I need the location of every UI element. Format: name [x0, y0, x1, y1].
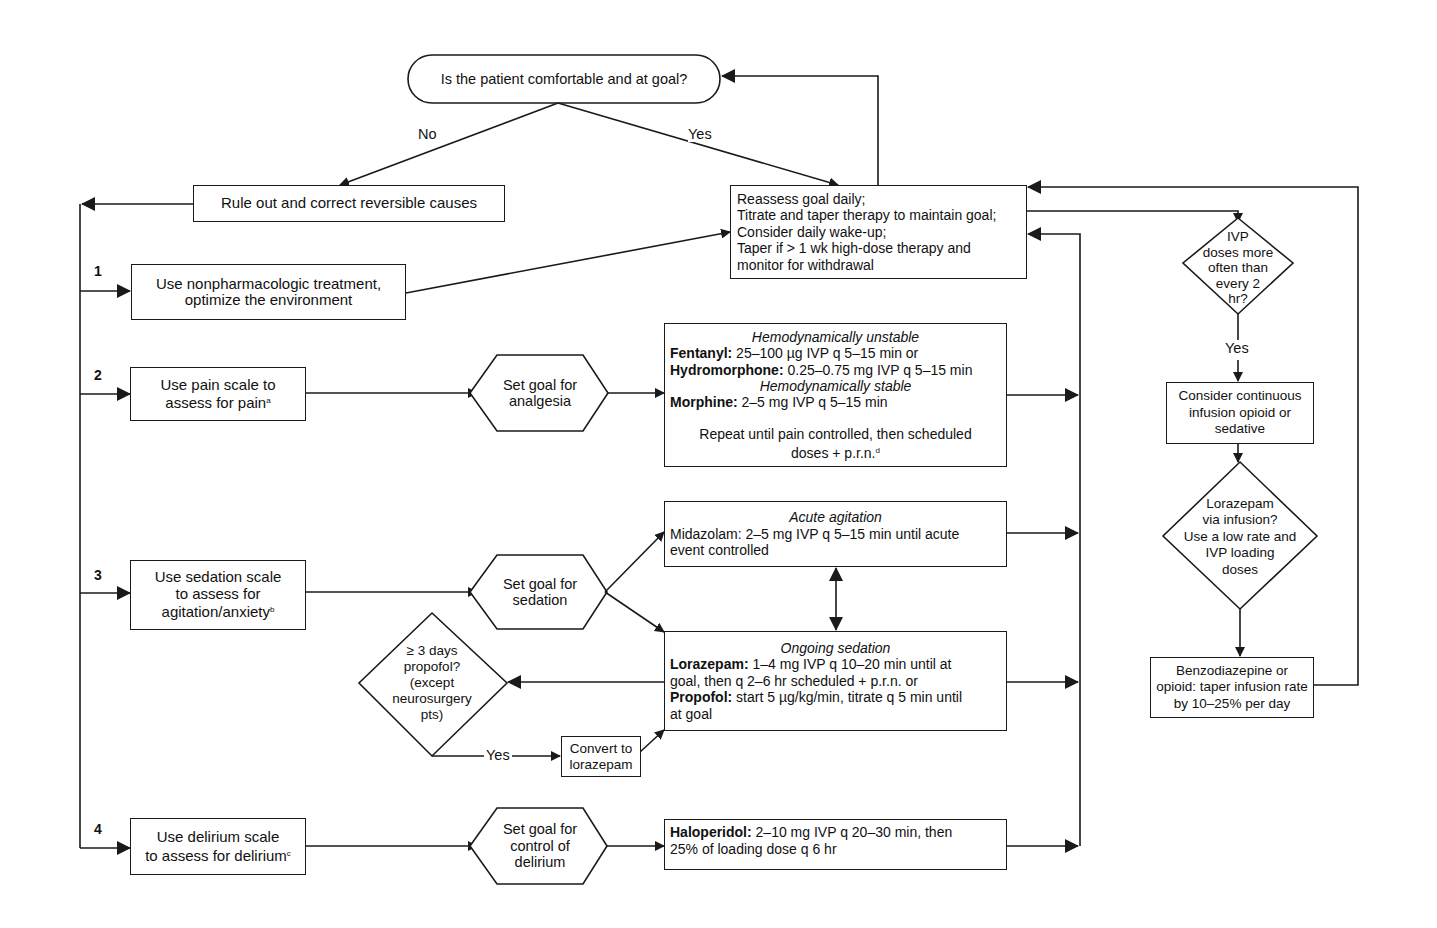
start-question[interactable]: Is the patient comfortable and at goal? — [408, 55, 720, 103]
step-number-3: 3 — [94, 567, 102, 583]
step-4-line: Use delirium scale — [157, 829, 280, 846]
propofol-decision-line: propofol? — [404, 659, 460, 675]
no-branch-label: No — [418, 126, 437, 142]
acute-agitation-box[interactable]: Acute agitation Midazolam: 2–5 mg IVP q … — [664, 501, 1007, 567]
step-3-line: to assess for — [175, 586, 260, 603]
step-3-line: agitation/anxiety — [162, 603, 270, 620]
step-2-pain-scale-box[interactable]: Use pain scale to assess for paina — [130, 367, 306, 421]
dose-propofol: at goal — [670, 706, 1001, 723]
ivp-decision-line: often than — [1208, 260, 1268, 276]
consider-infusion-line: infusion opioid or — [1189, 405, 1291, 422]
propofol-duration-decision[interactable]: ≥ 3 days propofol? (except neurosurgery … — [372, 635, 492, 731]
propofol-yes-label: Yes — [484, 747, 512, 763]
lorazepam-decision-line: doses — [1222, 562, 1258, 579]
step-4-delirium-scale-box[interactable]: Use delirium scale to assess for deliriu… — [130, 818, 306, 875]
goal-delirium-line: delirium — [515, 854, 566, 871]
analgesia-dosing-box[interactable]: Hemodynamically unstable Fentanyl: 25–10… — [664, 323, 1007, 467]
dose-fentanyl: 25–100 µg IVP q 5–15 min or — [732, 345, 918, 361]
ivp-yes-label: Yes — [1225, 340, 1249, 356]
footnote-marker: c — [287, 849, 291, 858]
consider-infusion-line: sedative — [1215, 421, 1265, 438]
lorazepam-decision-line: Lorazepam — [1206, 496, 1274, 513]
goal-delirium-line: Set goal for — [503, 821, 577, 838]
heading-ongoing-sedation: Ongoing sedation — [670, 640, 1001, 657]
repeat-instruction: Repeat until pain controlled, then sched… — [670, 426, 1001, 442]
step-2-line: Use pain scale to — [160, 377, 275, 394]
taper-infusion-box[interactable]: Benzodiazepine or opioid: taper infusion… — [1150, 657, 1314, 718]
ivp-decision-line: every 2 — [1216, 276, 1260, 292]
lorazepam-decision-line: IVP loading — [1206, 545, 1275, 562]
reassess-line: Taper if > 1 wk high-dose therapy and — [737, 240, 971, 257]
goal-delirium-line: control of — [510, 838, 570, 855]
step-number-2: 2 — [94, 367, 102, 383]
lorazepam-decision-line: Use a low rate and — [1184, 529, 1297, 546]
convert-line: Convert to — [570, 741, 632, 757]
footnote-marker: b — [270, 605, 274, 614]
heading-stable: Hemodynamically stable — [670, 378, 1001, 394]
dose-haloperidol: 25% of loading dose q 6 hr — [670, 841, 1001, 858]
haloperidol-dosing-box[interactable]: Haloperidol: 2–10 mg IVP q 20–30 min, th… — [664, 819, 1007, 870]
drug-lorazepam: Lorazepam: — [670, 656, 749, 672]
goal-analgesia-hexagon[interactable]: Set goal for analgesia — [480, 355, 600, 431]
propofol-decision-line: (except — [410, 675, 454, 691]
consider-infusion-line: Consider continuous — [1178, 388, 1301, 405]
step-3-line: Use sedation scale — [155, 569, 282, 586]
heading-acute-agitation: Acute agitation — [670, 509, 1001, 526]
goal-analgesia-line: Set goal for — [503, 377, 577, 394]
footnote-marker: d — [876, 446, 880, 455]
rule-out-box[interactable]: Rule out and correct reversible causes — [193, 185, 505, 222]
propofol-decision-line: neurosurgery — [392, 691, 472, 707]
reassess-line: Reassess goal daily; — [737, 191, 865, 208]
step-1-line: optimize the environment — [185, 292, 353, 309]
step-number-1: 1 — [94, 263, 102, 279]
taper-line: opioid: taper infusion rate — [1156, 679, 1308, 696]
ivp-decision-line: doses more — [1203, 245, 1274, 261]
step-2-line: assess for pain — [165, 394, 266, 411]
dose-lorazepam: goal, then q 2–6 hr scheduled + p.r.n. o… — [670, 673, 1001, 690]
step-4-line: to assess for delirium — [145, 847, 287, 864]
yes-branch-label: Yes — [688, 126, 712, 142]
dose-haloperidol: 2–10 mg IVP q 20–30 min, then — [752, 824, 953, 840]
heading-unstable: Hemodynamically unstable — [670, 329, 1001, 345]
step-number-4: 4 — [94, 821, 102, 837]
propofol-decision-line: pts) — [421, 707, 444, 723]
start-question-text: Is the patient comfortable and at goal? — [441, 71, 688, 88]
drug-propofol: Propofol: — [670, 689, 732, 705]
ongoing-sedation-box[interactable]: Ongoing sedation Lorazepam: 1–4 mg IVP q… — [664, 631, 1007, 731]
goal-analgesia-line: analgesia — [509, 393, 571, 410]
dose-hydromorphone: 0.25–0.75 mg IVP q 5–15 min — [784, 362, 973, 378]
goal-sedation-line: sedation — [513, 592, 568, 609]
repeat-instruction: doses + p.r.n. — [791, 445, 875, 461]
drug-fentanyl: Fentanyl: — [670, 345, 732, 361]
reassess-line: Consider daily wake-up; — [737, 224, 886, 241]
reassess-box[interactable]: Reassess goal daily; Titrate and taper t… — [730, 185, 1027, 279]
reassess-line: monitor for withdrawal — [737, 257, 874, 274]
goal-sedation-hexagon[interactable]: Set goal for sedation — [480, 555, 600, 629]
reassess-line: Titrate and taper therapy to maintain go… — [737, 207, 996, 224]
rule-out-text: Rule out and correct reversible causes — [221, 195, 477, 212]
drug-morphine: Morphine: — [670, 394, 738, 410]
convert-line: lorazepam — [569, 757, 632, 773]
ivp-decision-line: IVP — [1227, 229, 1249, 245]
drug-haloperidol: Haloperidol: — [670, 824, 752, 840]
midazolam-dose: Midazolam: 2–5 mg IVP q 5–15 min until a… — [670, 526, 1001, 543]
lorazepam-decision-line: via infusion? — [1202, 512, 1277, 529]
step-1-line: Use nonpharmacologic treatment, — [156, 276, 381, 293]
propofol-decision-line: ≥ 3 days — [407, 643, 458, 659]
convert-to-lorazepam-box[interactable]: Convert to lorazepam — [561, 736, 641, 777]
midazolam-dose: event controlled — [670, 542, 1001, 559]
taper-line: by 10–25% per day — [1174, 696, 1290, 713]
dose-morphine: 2–5 mg IVP q 5–15 min — [738, 394, 888, 410]
ivp-decision-line: hr? — [1228, 291, 1248, 307]
goal-delirium-hexagon[interactable]: Set goal for control of delirium — [480, 808, 600, 884]
dose-lorazepam: 1–4 mg IVP q 10–20 min until at — [749, 656, 952, 672]
step-1-nonpharmacologic-box[interactable]: Use nonpharmacologic treatment, optimize… — [131, 264, 406, 320]
drug-hydromorphone: Hydromorphone: — [670, 362, 784, 378]
dose-propofol: start 5 µg/kg/min, titrate q 5 min until — [732, 689, 962, 705]
step-3-sedation-scale-box[interactable]: Use sedation scale to assess for agitati… — [130, 560, 306, 630]
consider-infusion-box[interactable]: Consider continuous infusion opioid or s… — [1166, 382, 1314, 444]
goal-sedation-line: Set goal for — [503, 576, 577, 593]
taper-line: Benzodiazepine or — [1176, 663, 1288, 680]
ivp-frequency-decision[interactable]: IVP doses more often than every 2 hr? — [1193, 228, 1283, 308]
lorazepam-infusion-decision[interactable]: Lorazepam via infusion? Use a low rate a… — [1170, 492, 1310, 582]
